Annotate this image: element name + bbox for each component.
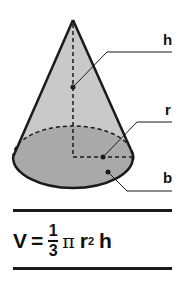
fraction-numerator: 1 xyxy=(49,223,58,239)
formula-height: h xyxy=(99,229,112,253)
bottom-divider xyxy=(13,267,172,270)
fraction-denominator: 3 xyxy=(49,243,58,259)
top-divider xyxy=(13,209,172,212)
formula-fraction: 1 3 xyxy=(48,223,58,259)
height-label: h xyxy=(163,32,172,47)
radius-label: r xyxy=(165,102,171,117)
volume-formula: V = 1 3 π r 2 h xyxy=(13,219,112,263)
formula-volume-symbol: V xyxy=(13,229,27,253)
formula-equals: = xyxy=(31,229,43,253)
base-label: b xyxy=(163,170,172,185)
formula-pi: π xyxy=(62,230,75,252)
formula-exponent: 2 xyxy=(88,235,94,247)
formula-radius: r xyxy=(80,229,88,253)
